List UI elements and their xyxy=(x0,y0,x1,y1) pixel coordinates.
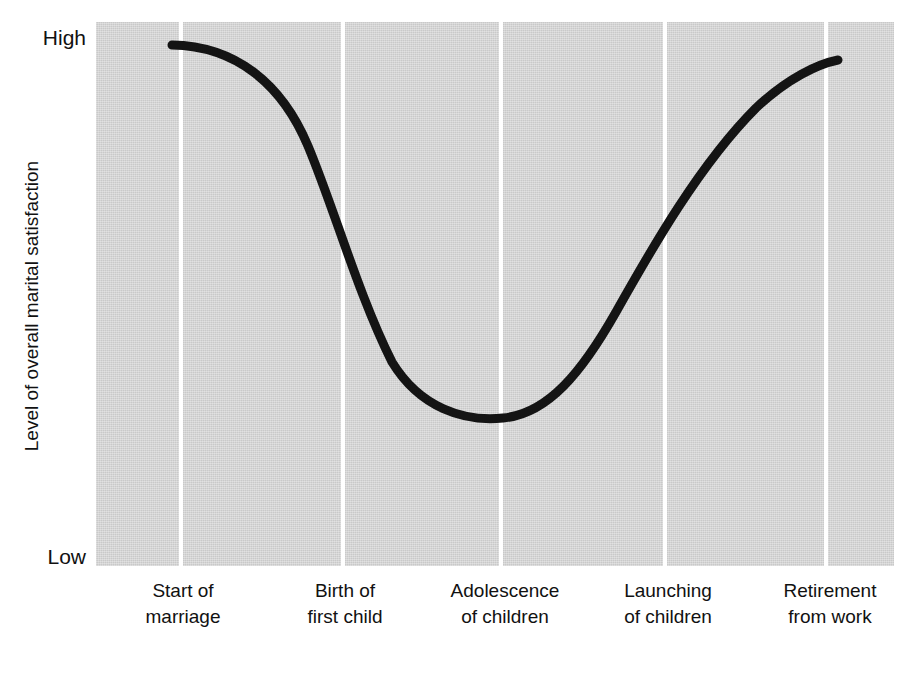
x-label-line-2: marriage xyxy=(98,604,268,630)
x-label-line-2: from work xyxy=(745,604,915,630)
x-label-line-1: Launching xyxy=(583,578,753,604)
x-axis-label-start-of-marriage: Start of marriage xyxy=(98,578,268,630)
x-label-line-1: Birth of xyxy=(260,578,430,604)
x-label-line-2: of children xyxy=(583,604,753,630)
x-label-line-1: Adolescence xyxy=(420,578,590,604)
plot-area xyxy=(96,22,894,566)
satisfaction-curve-svg xyxy=(96,22,894,566)
x-axis-label-group: Start of marriage Birth of first child A… xyxy=(0,578,924,648)
satisfaction-curve-line xyxy=(172,45,838,419)
x-label-line-2: first child xyxy=(260,604,430,630)
chart-figure: Level of overall marital satisfaction Hi… xyxy=(0,0,924,673)
y-axis-high-label: High xyxy=(30,26,86,50)
x-label-line-2: of children xyxy=(420,604,590,630)
x-axis-label-birth-of-first-child: Birth of first child xyxy=(260,578,430,630)
y-axis-title: Level of overall marital satisfaction xyxy=(21,96,43,516)
y-axis-low-label: Low xyxy=(30,545,86,569)
x-axis-label-launching-of-children: Launching of children xyxy=(583,578,753,630)
x-label-line-1: Start of xyxy=(98,578,268,604)
x-label-line-1: Retirement xyxy=(745,578,915,604)
x-axis-label-adolescence-of-children: Adolescence of children xyxy=(420,578,590,630)
x-axis-label-retirement-from-work: Retirement from work xyxy=(745,578,915,630)
